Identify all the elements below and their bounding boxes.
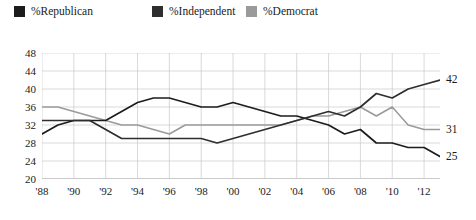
party-identification-line-chart: %Republican%Independent%Democrat 2024283… [0, 0, 476, 220]
plot-svg [42, 53, 440, 179]
x-tick-label: '10 [377, 186, 407, 197]
x-tick-label: '12 [409, 186, 439, 197]
chart-legend: %Republican%Independent%Democrat [0, 0, 476, 26]
x-tick-label: '92 [91, 186, 121, 197]
x-tick-label: '00 [218, 186, 248, 197]
x-tick-label: '96 [154, 186, 184, 197]
legend-label: %Republican [31, 6, 93, 18]
x-tick-label: '02 [250, 186, 280, 197]
end-label-independent: 42 [446, 74, 458, 86]
square-swatch-icon [246, 6, 257, 17]
y-tick-label: 36 [6, 102, 36, 113]
x-tick-label: '88 [27, 186, 57, 197]
y-tick-label: 28 [6, 138, 36, 149]
x-tick-label: '94 [123, 186, 153, 197]
x-tick-label: '90 [59, 186, 89, 197]
x-tick-label: '08 [345, 186, 375, 197]
end-label-democrat: 31 [446, 124, 458, 136]
series-line-independent [42, 80, 440, 143]
y-tick-label: 20 [6, 174, 36, 185]
x-tick-label: '04 [282, 186, 312, 197]
legend-label: %Independent [169, 6, 235, 18]
y-tick-label: 24 [6, 156, 36, 167]
y-tick-label: 44 [6, 66, 36, 77]
x-tick-label: '06 [314, 186, 344, 197]
end-label-republican: 25 [446, 151, 458, 163]
y-tick-label: 48 [6, 48, 36, 59]
legend-item-2[interactable]: %Democrat [246, 6, 318, 18]
y-tick-label: 32 [6, 120, 36, 131]
square-swatch-icon [152, 6, 163, 17]
x-tick-label: '98 [186, 186, 216, 197]
x-axis: '88'90'92'94'96'98'00'02'04'06'08'10'12 [0, 186, 476, 206]
plot-area [42, 53, 440, 179]
legend-item-1[interactable]: %Independent [152, 6, 235, 18]
y-tick-label: 40 [6, 84, 36, 95]
legend-label: %Democrat [263, 6, 318, 18]
